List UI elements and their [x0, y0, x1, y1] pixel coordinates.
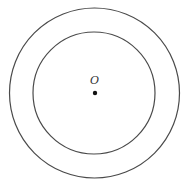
center-label: O [90, 74, 99, 87]
center-point-o [93, 91, 97, 95]
concentric-circles-diagram: O [0, 0, 188, 185]
